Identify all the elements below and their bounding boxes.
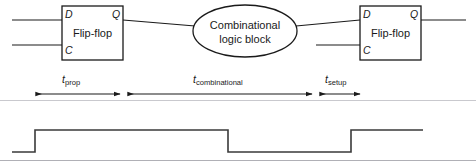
wire-combinational-to-right-d	[296, 20, 360, 26]
combinational-logic-label-line2: logic block	[193, 33, 297, 46]
t-prop-subscript: prop	[65, 78, 80, 87]
flip-flop-timing-diagram: D Q C Flip-flop Combinational logic bloc…	[0, 0, 476, 167]
t-combinational-label: tcombinational	[193, 74, 243, 85]
t-setup-label: tsetup	[325, 74, 347, 85]
flip-flop-left-label: Flip-flop	[62, 28, 123, 39]
port-label-q-right: Q	[410, 9, 418, 20]
port-label-d-right: D	[363, 9, 371, 20]
flip-flop-right-label: Flip-flop	[360, 28, 421, 39]
clock-waveform-trace	[12, 130, 423, 152]
t-setup-subscript: setup	[328, 78, 347, 87]
port-label-d-left: D	[65, 9, 73, 20]
t-combinational-subscript: combinational	[196, 78, 243, 87]
port-label-q-left: Q	[112, 9, 120, 20]
combinational-logic-label-line1: Combinational	[193, 19, 297, 32]
port-label-c-right: C	[363, 45, 371, 56]
t-prop-label: tprop	[62, 74, 80, 85]
port-label-c-left: C	[65, 45, 73, 56]
wire-left-q-to-combinational	[123, 20, 195, 26]
